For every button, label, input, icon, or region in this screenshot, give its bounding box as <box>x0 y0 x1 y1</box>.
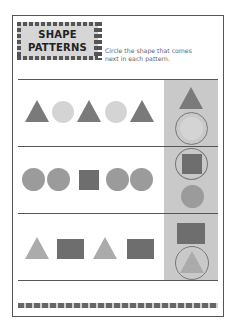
circle-shape <box>47 168 70 191</box>
title-box: SHAPE PATTERNS <box>17 22 98 60</box>
circle-shape <box>52 101 74 123</box>
divider-3 <box>18 213 218 214</box>
answer-square[interactable] <box>182 154 202 174</box>
triangle-shape <box>25 100 49 122</box>
square-shape <box>79 170 99 190</box>
instruction-line-1: Circle the shape that comes <box>105 47 192 55</box>
divider-2 <box>18 146 218 147</box>
circle-shape <box>22 168 45 191</box>
instruction-line-2: next in each pattern. <box>105 55 192 63</box>
answer-rectangle[interactable] <box>177 223 205 244</box>
divider-4 <box>18 280 218 281</box>
circle-shape <box>130 168 153 191</box>
triangle-shape <box>130 100 154 122</box>
title-line-1: SHAPE <box>21 29 94 40</box>
title-side-dots <box>98 22 102 60</box>
triangle-shape <box>93 237 117 259</box>
answer-circle[interactable] <box>180 117 203 140</box>
triangle-shape <box>77 100 101 122</box>
circle-shape <box>106 168 129 191</box>
rectangle-shape <box>57 239 84 259</box>
bottom-dotted-border <box>18 303 218 308</box>
title-line-2: PATTERNS <box>21 42 94 53</box>
divider-1 <box>18 79 218 80</box>
answer-triangle[interactable] <box>180 251 204 273</box>
answer-triangle[interactable] <box>179 87 203 109</box>
circle-shape <box>105 101 127 123</box>
rectangle-shape <box>127 239 154 259</box>
instructions: Circle the shape that comes next in each… <box>105 47 192 62</box>
answer-circle[interactable] <box>181 185 204 208</box>
triangle-shape <box>25 237 49 259</box>
